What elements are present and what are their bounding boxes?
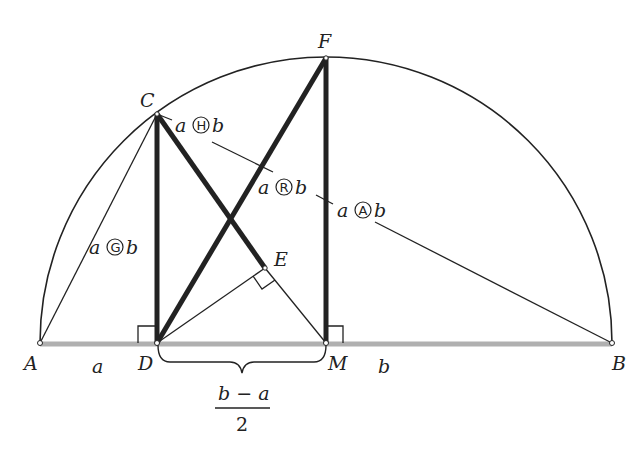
segment-DF	[157, 58, 326, 343]
label-B: B	[611, 352, 626, 374]
right-angle-mark-D	[138, 326, 157, 343]
label-b: b	[378, 355, 390, 377]
mean-right: b	[212, 114, 224, 136]
segment-EM	[265, 268, 326, 343]
mean-right: b	[295, 176, 307, 198]
segment-DE	[157, 268, 265, 343]
mean-label-rms: a R b	[258, 176, 307, 198]
right-angle-mark-E	[253, 276, 275, 289]
fraction-numerator: b − a	[218, 382, 270, 404]
label-A: A	[22, 352, 38, 374]
circled-letter-A: A	[359, 203, 368, 218]
label-D: D	[137, 352, 153, 374]
label-E: E	[273, 248, 288, 270]
mean-left: a	[337, 199, 348, 221]
label-a: a	[92, 355, 103, 377]
point-F	[324, 56, 328, 60]
segment-AC	[40, 114, 157, 343]
mean-label-harmonic: a H b	[175, 114, 224, 136]
mean-left: a	[175, 114, 186, 136]
point-E	[263, 266, 267, 270]
point-D	[155, 341, 160, 346]
mean-left: a	[258, 176, 269, 198]
label-M: M	[327, 352, 348, 374]
point-C	[155, 112, 159, 116]
fraction-denominator: 2	[236, 413, 248, 435]
label-C: C	[140, 89, 155, 111]
circled-letter-R: R	[280, 180, 289, 195]
mean-left: a	[89, 236, 100, 258]
circled-letter-H: H	[197, 118, 207, 133]
point-M	[324, 341, 329, 346]
point-A	[38, 341, 43, 346]
right-angle-mark-M	[326, 326, 343, 343]
label-F: F	[317, 30, 332, 52]
mean-right: b	[374, 199, 386, 221]
brace-DM	[158, 345, 326, 373]
semicircle-means-diagram: A D M B C F E a b b − a 2 a H b a G b a …	[0, 0, 642, 450]
mean-label-arithmetic: a A b	[337, 199, 386, 221]
mean-label-geometric: a G b	[89, 236, 138, 258]
segment-CB-part4	[375, 222, 612, 343]
point-B	[610, 341, 615, 346]
mean-right: b	[126, 236, 138, 258]
circled-letter-G: G	[111, 240, 121, 255]
